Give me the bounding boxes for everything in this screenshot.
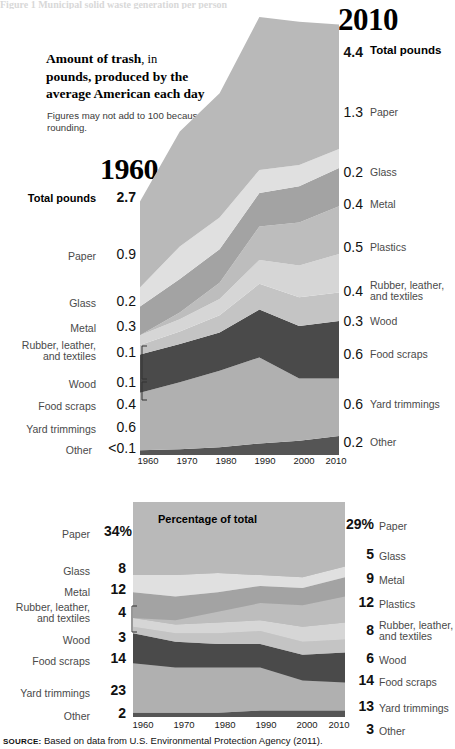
axis2-tick-1980: 1980: [214, 719, 235, 730]
label-glass-1960: Glass: [4, 297, 96, 309]
bracket-wood-food-1960: [135, 380, 149, 406]
axis-bottom: 1960 1970 1980 1990 2000 2010: [133, 719, 345, 733]
axis-tick-1990: 1990: [254, 455, 275, 466]
value-total-pounds-2010: 4.4: [341, 44, 363, 60]
pct-label-yard-trimmings-2010: Yard trimmings: [379, 703, 449, 715]
pct-value-glass-1960: 8: [94, 560, 126, 576]
axis2-tick-1960: 1960: [132, 719, 153, 730]
value-glass-1960: 0.2: [100, 293, 136, 309]
label-metal-1960: Metal: [4, 322, 96, 334]
axis2-tick-2000: 2000: [296, 719, 317, 730]
pct-value-rubber-2010: 8: [340, 622, 374, 638]
axis-tick-2010: 2010: [325, 455, 346, 466]
axis-tick-1960: 1960: [137, 455, 158, 466]
pct-value-other-2010: 3: [340, 721, 374, 737]
pct-label-other-1960: Other: [4, 710, 90, 722]
percentage-chart-title: Percentage of total: [158, 513, 257, 525]
pct-label-paper-1960: Paper: [4, 528, 90, 540]
label-rubber-2010-line2: and textiles: [370, 291, 423, 303]
value-other-1960: <0.1: [92, 440, 136, 456]
label-rubber-1960-line2: and textiles: [0, 350, 96, 362]
value-food-scraps-1960: 0.4: [100, 396, 136, 412]
headline-strong: Amount of trash: [46, 51, 141, 66]
pct-value-paper-2010: 29%: [340, 516, 374, 532]
label-other-1960: Other: [4, 444, 92, 456]
value-metal-2010: 0.4: [341, 196, 363, 212]
value-paper-1960: 0.9: [100, 246, 136, 262]
pct-value-metal-2010: 9: [340, 570, 374, 586]
infographic-root: Figure 1 Municipal solid waste generatio…: [0, 0, 455, 749]
pct-label-paper-2010: Paper: [379, 521, 407, 533]
value-rubber-1960: 0.1: [100, 344, 136, 360]
pct-value-metal-1960: 12: [94, 581, 126, 597]
axis2-tick-1970: 1970: [173, 719, 194, 730]
axis-tick-1980: 1980: [215, 455, 236, 466]
label-wood-1960: Wood: [4, 378, 96, 390]
bracket-rubber-wood-pct: [127, 604, 139, 640]
source-text: Based on data from U.S. Environmental Pr…: [41, 735, 322, 746]
value-total-pounds-1960: 2.7: [100, 189, 136, 205]
pct-label-metal-2010: Metal: [379, 575, 405, 587]
value-glass-2010: 0.2: [341, 164, 363, 180]
pct-value-yard-trimmings-1960: 23: [94, 682, 126, 698]
pct-value-paper-1960: 34%: [94, 523, 132, 539]
label-wood-2010: Wood: [370, 316, 397, 328]
label-plastics-2010: Plastics: [370, 242, 406, 254]
pct-value-yard-trimmings-2010: 13: [340, 698, 374, 714]
label-food-scraps-2010: Food scraps: [370, 349, 428, 361]
pct-value-food-scraps-2010: 14: [340, 672, 374, 688]
pct-value-wood-1960: 3: [94, 629, 126, 645]
label-other-2010: Other: [370, 437, 396, 449]
value-food-scraps-2010: 0.6: [341, 346, 363, 362]
pct-value-food-scraps-1960: 14: [94, 650, 126, 666]
label-total-pounds-1960: Total pounds: [4, 192, 96, 204]
pct-value-rubber-1960: 4: [94, 604, 126, 620]
chart-percentage-of-total: [133, 502, 345, 717]
axis-top: 1960 1970 1980 1990 2000 2010: [140, 455, 339, 469]
source-label: SOURCE:: [3, 737, 41, 746]
value-yard-trimmings-2010: 0.6: [341, 396, 363, 412]
label-paper-2010: Paper: [370, 107, 398, 119]
pct-label-other-2010: Other: [379, 726, 405, 738]
pct-value-glass-2010: 5: [340, 546, 374, 562]
pct-value-plastics-2010: 12: [340, 594, 374, 610]
pct-label-yard-trimmings-1960: Yard trimmings: [4, 687, 90, 699]
value-wood-1960: 0.1: [100, 374, 136, 390]
pct-label-glass-2010: Glass: [379, 551, 406, 563]
pct-label-glass-1960: Glass: [4, 565, 90, 577]
label-food-scraps-1960: Food scraps: [4, 400, 96, 412]
pct-label-food-scraps-1960: Food scraps: [4, 655, 90, 667]
pct-value-wood-2010: 6: [340, 650, 374, 666]
label-yard-trimmings-2010: Yard trimmings: [370, 399, 440, 411]
axis-tick-2000: 2000: [293, 455, 314, 466]
value-other-2010: 0.2: [341, 434, 363, 450]
pct-label-wood-2010: Wood: [379, 655, 406, 667]
source-line: SOURCE: Based on data from U.S. Environm…: [3, 735, 323, 746]
axis2-tick-1990: 1990: [255, 719, 276, 730]
value-paper-2010: 1.3: [341, 104, 363, 120]
label-glass-2010: Glass: [370, 167, 397, 179]
pct-value-other-1960: 2: [94, 705, 126, 721]
pct-label-rubber-1960-line2: and textiles: [0, 612, 90, 624]
label-metal-2010: Metal: [370, 199, 396, 211]
value-yard-trimmings-1960: 0.6: [100, 419, 136, 435]
pct-label-plastics-2010: Plastics: [379, 599, 415, 611]
label-total-pounds-2010: Total pounds: [370, 45, 441, 57]
label-paper-1960: Paper: [4, 250, 96, 262]
value-wood-2010: 0.3: [341, 313, 363, 329]
pct-label-wood-1960: Wood: [4, 634, 90, 646]
chart-pounds-per-person: [140, 9, 339, 455]
value-rubber-2010: 0.4: [341, 283, 363, 299]
value-metal-1960: 0.3: [100, 318, 136, 334]
label-yard-trimmings-1960: Yard trimmings: [4, 423, 96, 435]
pct-label-food-scraps-2010: Food scraps: [379, 677, 437, 689]
value-plastics-2010: 0.5: [341, 239, 363, 255]
year-heading-2010: 2010: [338, 2, 398, 38]
pct-label-rubber-2010-line2: and textiles: [379, 631, 432, 643]
axis-tick-1970: 1970: [176, 455, 197, 466]
pct-label-metal-1960: Metal: [4, 586, 90, 598]
